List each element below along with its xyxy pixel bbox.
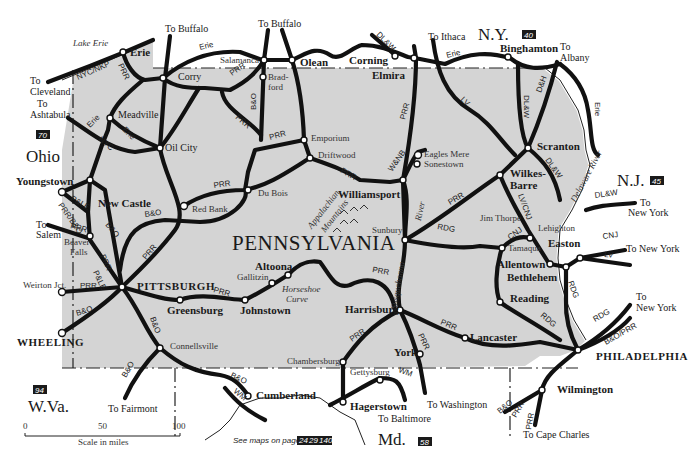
city-lancaster[interactable]: Lancaster	[470, 331, 517, 343]
city-easton[interactable]: Easton	[548, 237, 580, 249]
city-weirton[interactable]: Weirton Jct.	[23, 280, 66, 290]
city-driftwood[interactable]: Driftwood	[318, 150, 356, 160]
svg-text:PRR: PRR	[524, 412, 536, 430]
svg-text:0: 0	[23, 421, 28, 431]
dest-ashtabula-1: To	[37, 98, 47, 109]
svg-text:PRR: PRR	[80, 281, 97, 290]
svg-text:See maps on pages: See maps on pages	[233, 436, 304, 445]
city-hagerstown[interactable]: Hagerstown	[350, 400, 407, 412]
city-olean[interactable]: Olean	[300, 56, 328, 68]
city-oil-city[interactable]: Oil City	[165, 142, 198, 153]
city-cumberland[interactable]: Cumberland	[256, 389, 316, 401]
lake-erie-label: Lake Erie	[72, 38, 108, 48]
svg-text:DL&W: DL&W	[522, 95, 531, 119]
svg-text:LV: LV	[604, 250, 615, 260]
dest-ny-1b: New York	[628, 207, 669, 218]
dest-salem-2: Salem	[36, 229, 61, 240]
city-pittsburgh[interactable]: PITTSBURGH	[137, 280, 215, 292]
dest-albany-1: To	[560, 41, 570, 52]
dest-albany-2: Albany	[560, 52, 589, 63]
city-wilkes-1[interactable]: Wilkes-	[510, 167, 546, 179]
svg-text:Erie: Erie	[198, 40, 215, 52]
city-chambersburg[interactable]: Chambersburg	[287, 356, 340, 366]
scale-label: Scale in miles	[78, 437, 129, 447]
state-wv: W.Va.	[28, 397, 69, 416]
curve-label: Curve	[286, 294, 308, 304]
city-bradford-2[interactable]: ford	[268, 82, 283, 92]
city-gettysburg[interactable]: Gettysburg	[350, 367, 390, 377]
dest-ny-2: To New York	[626, 243, 679, 254]
svg-text:Erie: Erie	[593, 102, 602, 117]
state-ohio: Ohio	[26, 147, 60, 166]
dest-fairmont: To Fairmont	[108, 403, 158, 414]
svg-text:CNJ: CNJ	[602, 230, 619, 241]
city-allentown[interactable]: Allentown	[497, 258, 545, 270]
svg-text:B&O: B&O	[249, 93, 258, 110]
svg-text:29: 29	[308, 436, 318, 445]
city-jim-thorpe[interactable]: Jim Thorpe	[480, 213, 521, 223]
city-philadelphia[interactable]: PHILADELPHIA	[596, 350, 688, 362]
dest-buffalo-2: To Buffalo	[258, 18, 301, 29]
svg-text:24: 24	[298, 436, 308, 445]
city-sonestown[interactable]: Sonestown	[424, 159, 464, 169]
city-corning[interactable]: Corning	[349, 54, 389, 66]
page-badge-wv-text: 94	[35, 386, 44, 395]
svg-text:RDG: RDG	[566, 280, 581, 300]
city-beaver-2[interactable]: Falls	[70, 247, 88, 257]
city-wilkes-2[interactable]: Barre	[510, 179, 537, 191]
city-erie[interactable]: Erie	[130, 46, 150, 58]
city-greensburg[interactable]: Greensburg	[167, 304, 224, 316]
city-york[interactable]: York	[394, 346, 418, 358]
dest-baltimore: To Baltimore	[378, 413, 431, 424]
city-du-bois[interactable]: Du Bois	[258, 188, 288, 198]
dest-ashtabula-2: Ashtabula	[30, 109, 71, 120]
city-gallitzin[interactable]: Gallitzin	[237, 272, 269, 282]
city-lehighton[interactable]: Lehighton	[538, 223, 575, 233]
dest-cleveland-2: Cleveland	[30, 86, 71, 97]
city-bradford-1[interactable]: Brad-	[268, 72, 289, 82]
city-johnstown[interactable]: Johnstown	[240, 304, 291, 316]
state-nj: N.J.	[617, 171, 644, 190]
city-binghamton[interactable]: Binghamton	[500, 42, 558, 54]
dest-ny-3a: To	[636, 291, 646, 302]
page-badge-ny-text: 40	[524, 31, 533, 40]
page-badge-md-text: 58	[420, 438, 429, 447]
city-reading[interactable]: Reading	[510, 292, 550, 304]
state-md: Md.	[378, 430, 406, 449]
city-bethlehem[interactable]: Bethlehem	[507, 271, 557, 283]
city-sunbury[interactable]: Sunbury	[372, 225, 403, 235]
city-meadville[interactable]: Meadville	[118, 109, 159, 120]
city-connellsville[interactable]: Connellsville	[170, 341, 218, 351]
city-youngstown[interactable]: Youngstown	[16, 175, 73, 187]
svg-text:100: 100	[172, 421, 186, 431]
city-harrisburg[interactable]: Harrisburg	[345, 303, 399, 315]
city-tamaqua[interactable]: Tamaqua	[508, 243, 541, 253]
city-scranton[interactable]: Scranton	[537, 140, 580, 152]
page-badge-ohio-text: 70	[38, 131, 47, 140]
city-eagles-mere[interactable]: Eagles Mere	[424, 149, 469, 159]
dest-cape-charles: To Cape Charles	[523, 429, 590, 440]
city-new-castle[interactable]: New Castle	[98, 197, 151, 209]
page-badge-nj-text: 45	[652, 177, 661, 186]
dest-ithaca: To Ithaca	[428, 31, 466, 42]
city-elmira[interactable]: Elmira	[372, 69, 405, 81]
city-beaver-1[interactable]: Beaver	[64, 237, 89, 247]
city-wilmington[interactable]: Wilmington	[557, 383, 613, 395]
pennsylvania-railroad-map: Lake Erie Delaware River Susquehanna Riv…	[0, 0, 691, 471]
dest-ny-3b: New York	[636, 302, 677, 313]
city-altoona[interactable]: Altoona	[255, 260, 293, 272]
svg-text:50: 50	[98, 421, 108, 431]
scale-bar: 0 50 100 Scale in miles	[23, 421, 186, 447]
horseshoe-label: Horseshoe	[281, 284, 321, 294]
city-emporium[interactable]: Emporium	[311, 133, 350, 143]
city-williamsport[interactable]: Williamsport	[338, 188, 400, 200]
dest-buffalo-1: To Buffalo	[165, 23, 208, 34]
dest-cleveland-1: To	[30, 75, 40, 86]
svg-text:DL&W: DL&W	[594, 188, 619, 200]
city-corry[interactable]: Corry	[178, 71, 201, 82]
svg-text:140: 140	[319, 436, 333, 445]
dest-washington: To Washington	[427, 399, 487, 410]
city-wheeling[interactable]: WHEELING	[17, 336, 84, 348]
svg-text:RDG: RDG	[592, 307, 612, 324]
city-red-bank[interactable]: Red Bank	[192, 204, 228, 214]
